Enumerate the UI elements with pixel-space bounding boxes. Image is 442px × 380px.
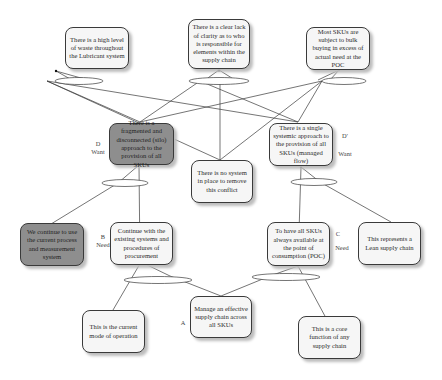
node-d-fragmented-approach: There is a fragmented and disconnected (… — [109, 123, 174, 165]
node-current-mode: This is the current mode of operation — [82, 310, 145, 353]
label-d-prime-letter: D' — [342, 132, 348, 139]
label-c: C — [333, 230, 343, 238]
node-text: Most SKUs are subject to bulk buying in … — [310, 28, 366, 69]
node-text: Manage an effective supply chain across … — [194, 305, 248, 330]
node-text: There is a fragmented and disconnected (… — [113, 119, 170, 169]
node-lack-of-clarity: There is a clear lack of clarity as to w… — [188, 19, 250, 69]
label-c-need: Need — [333, 244, 351, 252]
and-ellipse — [124, 277, 192, 284]
node-text: There is a high level of waste throughou… — [69, 36, 125, 61]
and-ellipse — [189, 78, 249, 85]
node-text: This represents a Lean supply chain — [362, 235, 417, 252]
node-core-function: This is a core function of any supply ch… — [298, 316, 361, 359]
node-a-manage-supply-chain: Manage an effective supply chain across … — [190, 296, 252, 338]
node-b-continue-existing: Continue with the existing systems and p… — [110, 222, 173, 265]
and-ellipse — [322, 78, 366, 85]
label-a: A — [179, 319, 187, 327]
label-b-need: Need — [96, 241, 109, 248]
and-ellipse — [102, 180, 148, 187]
node-bulk-buying: Most SKUs are subject to bulk buying in … — [306, 27, 370, 70]
label-d: D Want — [91, 140, 105, 156]
label-b-letter: B — [101, 233, 105, 240]
label-d-prime-want: Want — [337, 150, 353, 158]
node-no-system: There is no system in place to remove th… — [191, 160, 253, 203]
node-text: This is the current mode of operation — [86, 323, 141, 340]
node-text: There is a clear lack of clarity as to w… — [192, 23, 246, 64]
node-text: We continue to use the current process a… — [24, 228, 80, 261]
node-lean-supply-chain: This represents a Lean supply chain — [358, 222, 421, 265]
node-text: To have all SKUs always available at the… — [271, 227, 326, 260]
and-ellipse — [252, 274, 320, 281]
label-d-prime: D' — [338, 132, 352, 140]
node-d-prime-single-systemic: There is a single systemic approach to t… — [269, 123, 333, 166]
node-text: This is a core function of any supply ch… — [302, 325, 357, 350]
node-current-process: We continue to use the current process a… — [20, 223, 84, 266]
and-ellipse — [55, 78, 103, 85]
label-d-want: Want — [91, 148, 104, 155]
node-c-all-skus-available: To have all SKUs always available at the… — [267, 222, 330, 266]
node-text: Continue with the existing systems and p… — [114, 227, 169, 260]
label-d-letter: D — [96, 140, 101, 147]
and-ellipse — [291, 179, 337, 186]
node-high-waste: There is a high level of waste throughou… — [65, 27, 129, 69]
node-text: There is a single systemic approach to t… — [273, 124, 329, 165]
conflict-diagram: There is a high level of waste throughou… — [0, 0, 442, 380]
node-text: There is no system in place to remove th… — [195, 169, 249, 194]
